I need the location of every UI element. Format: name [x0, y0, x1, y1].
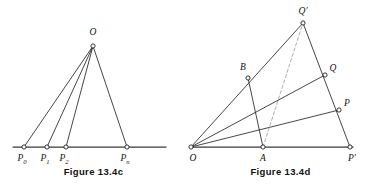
vertex-label-p: P	[343, 98, 350, 108]
edge-Qprime-Pprime	[303, 23, 350, 147]
edge-O-P0	[24, 46, 93, 147]
vertex-label-a: A	[259, 153, 266, 163]
vertex-label-pprime: P′	[347, 153, 357, 163]
ray-O-Qprime	[191, 23, 303, 147]
vertex-o	[91, 44, 95, 48]
vertex-label-p1: P1	[39, 153, 49, 165]
vertex-pprime	[348, 145, 352, 149]
edge-B-A	[248, 78, 263, 147]
ray-O-Q	[191, 75, 325, 147]
vertex-label-p2: P2	[58, 153, 69, 165]
vertex-label-qprime: Q′	[299, 6, 309, 16]
vertex-o	[189, 145, 193, 149]
vertex-label-q: Q	[330, 63, 337, 73]
vertex-label-o: O	[90, 27, 97, 37]
edge-A-Qprime	[263, 23, 303, 147]
figure-13-4d-drawing: OQ′BQPAP′	[187, 0, 374, 165]
figure-caption-13-4c: Figure 13.4c	[0, 166, 187, 177]
vertex-p0	[22, 145, 26, 149]
vertex-q	[323, 73, 327, 77]
vertex-label-p0: P0	[16, 153, 27, 165]
vertex-b	[246, 76, 250, 80]
vertex-label-b: B	[240, 62, 246, 72]
vertex-p	[337, 108, 341, 112]
vertex-label-o: O	[190, 153, 197, 163]
vertex-label-pn: Pn	[119, 153, 130, 165]
figure-13-4c-drawing: OP0P1P2Pn	[0, 0, 187, 165]
vertex-p1	[45, 145, 49, 149]
vertex-pn	[125, 145, 129, 149]
figure-board: OP0P1P2Pn Figure 13.4c OQ′BQPAP′ Figure …	[0, 0, 374, 188]
edge-O-Pn	[93, 46, 127, 147]
figure-panel-13-4d: OQ′BQPAP′ Figure 13.4d	[187, 0, 374, 188]
vertex-a	[261, 145, 265, 149]
figure-caption-13-4d: Figure 13.4d	[187, 166, 374, 177]
vertex-p2	[64, 145, 68, 149]
figure-panel-13-4c: OP0P1P2Pn Figure 13.4c	[0, 0, 187, 188]
vertex-qprime	[301, 21, 305, 25]
